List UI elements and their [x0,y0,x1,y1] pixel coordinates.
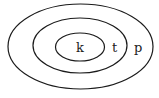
label-k: k [76,40,84,55]
label-t: t [112,40,118,55]
nested-sets-diagram: k t p [0,0,159,98]
label-p: p [134,40,142,55]
